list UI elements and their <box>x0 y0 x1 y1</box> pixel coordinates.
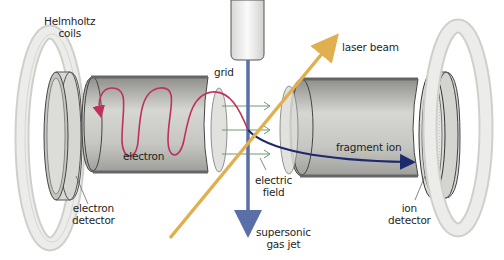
label-jet-line2: gas jet <box>256 238 311 250</box>
label-idet-line1: ion <box>388 202 431 214</box>
gas-nozzle <box>231 0 264 60</box>
label-laser-beam: laser beam <box>342 41 399 53</box>
label-jet-line1: supersonic <box>256 226 311 238</box>
label-helmholtz-line1: Helmholtz <box>44 15 95 27</box>
label-electron-detector: electron detector <box>72 202 115 226</box>
label-helmholtz-line2: coils <box>44 27 95 39</box>
label-electric-field: electric field <box>255 174 292 198</box>
label-edet-line2: detector <box>72 214 115 226</box>
label-edet-line1: electron <box>72 202 115 214</box>
label-fragment-ion: fragment ion <box>336 141 402 153</box>
label-idet-line2: detector <box>388 214 431 226</box>
label-helmholtz-coils: Helmholtz coils <box>44 15 95 39</box>
label-electric-line2: field <box>255 186 292 198</box>
label-supersonic-gas-jet: supersonic gas jet <box>256 226 311 250</box>
label-electron: electron <box>123 150 164 162</box>
label-electric-line1: electric <box>255 174 292 186</box>
label-grid: grid <box>214 66 234 78</box>
label-ion-detector: ion detector <box>388 202 431 226</box>
electron-detector <box>44 72 82 200</box>
electric-field-arrows <box>222 102 270 158</box>
